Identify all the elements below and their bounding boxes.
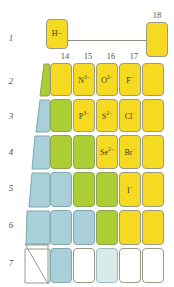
cell-r4-g14[interactable] [50,135,72,169]
cell-r2-g15[interactable]: N3− [73,63,95,96]
group-label-14: 14 [56,51,74,61]
cell-r3-g17[interactable]: Cl− [119,99,141,132]
row-label-2: 2 [0,76,22,86]
cell-r6-g17[interactable] [119,210,141,245]
row-7-wedge-outline [24,243,50,287]
cell-r4-g15[interactable] [73,135,95,169]
row-label-5: 5 [0,183,22,193]
cell-r4-g18[interactable] [142,135,164,169]
cell-r6-wedge[interactable] [25,210,51,247]
cell-r5-g15[interactable] [73,172,95,207]
cell-label-se: Se2− [100,147,114,157]
cell-r2-g18[interactable] [142,63,164,96]
cell-label-i: I− [127,185,133,195]
cell-hydrogen[interactable]: H− [46,19,68,49]
cell-label-o: O2− [101,75,113,85]
cell-r3-g16[interactable]: S2− [96,99,118,132]
cell-r3-g15[interactable]: P3− [73,99,95,132]
cell-r2-g16[interactable]: O2− [96,63,118,96]
cell-r5-g16[interactable] [96,172,118,207]
cell-r5-g17[interactable]: I− [119,172,141,207]
cell-label-hydrogen: H− [52,30,62,38]
cell-label-cl: Cl− [125,111,136,121]
row-label-1: 1 [0,33,22,43]
group-label-16: 16 [102,51,120,61]
cell-r7-g15[interactable] [73,248,95,283]
cell-label-p: P3− [79,111,89,121]
cell-r6-g15[interactable] [73,210,95,245]
cell-label-f: F− [126,75,134,85]
cell-r5-g14[interactable] [50,172,72,207]
period-1-connector [66,40,148,41]
group-label-18: 18 [146,10,168,20]
cell-r3-g18[interactable] [142,99,164,132]
cell-r7-g18[interactable] [142,248,164,283]
cell-r6-g16[interactable] [96,210,118,245]
periodic-table-figure: 1 2 3 4 5 6 7 14 15 16 17 18 H− N3−O2−F−… [0,0,174,287]
cell-r6-g14[interactable] [50,210,72,245]
row-label-6: 6 [0,220,22,230]
cell-r4-wedge[interactable] [31,135,51,171]
cell-r7-g14[interactable] [50,248,72,283]
row-label-3: 3 [0,111,22,121]
cell-r1-g18[interactable] [146,22,168,57]
cell-r4-g16[interactable]: Se2− [96,135,118,169]
cell-r5-wedge[interactable] [28,172,51,209]
cell-label-s: S2− [102,111,112,121]
group-label-17: 17 [125,51,143,61]
cell-r7-g16[interactable] [96,248,118,283]
cell-r5-g18[interactable] [142,172,164,207]
group-label-15: 15 [79,51,97,61]
cell-r4-g17[interactable]: Br− [119,135,141,169]
cell-r2-g14[interactable] [50,63,72,96]
row-label-4: 4 [0,147,22,157]
cell-r7-g17[interactable] [119,248,141,283]
row-label-7: 7 [0,258,22,268]
cell-r3-wedge[interactable] [35,99,51,134]
cell-r6-g18[interactable] [142,210,164,245]
cell-r3-g14[interactable] [50,99,72,132]
cell-label-br: Br− [124,147,135,157]
cell-r2-g17[interactable]: F− [119,63,141,96]
cell-label-n: N3− [78,75,90,85]
